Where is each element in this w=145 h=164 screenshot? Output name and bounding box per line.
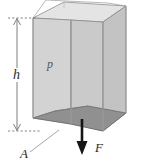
force-label: F bbox=[94, 140, 104, 155]
pressure-label: p bbox=[46, 57, 53, 71]
figure-container: h h p A F bbox=[0, 0, 145, 164]
area-label: A bbox=[19, 146, 28, 161]
height-label-text: h bbox=[13, 67, 20, 82]
pressure-label-group: p bbox=[46, 57, 53, 71]
prism-front-left-face bbox=[33, 18, 71, 124]
physics-diagram-svg: h h p A F bbox=[0, 0, 145, 164]
